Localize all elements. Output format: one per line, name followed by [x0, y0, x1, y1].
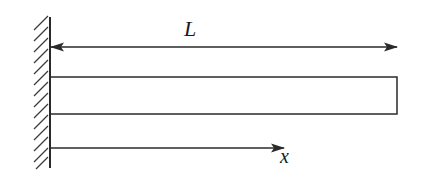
x-axis-label: x — [280, 146, 289, 166]
fixed-wall-support — [34, 16, 50, 169]
wall-hatching — [34, 16, 48, 169]
cantilever-beam-diagram — [0, 0, 421, 176]
length-label: L — [184, 18, 196, 40]
beam — [50, 77, 397, 114]
